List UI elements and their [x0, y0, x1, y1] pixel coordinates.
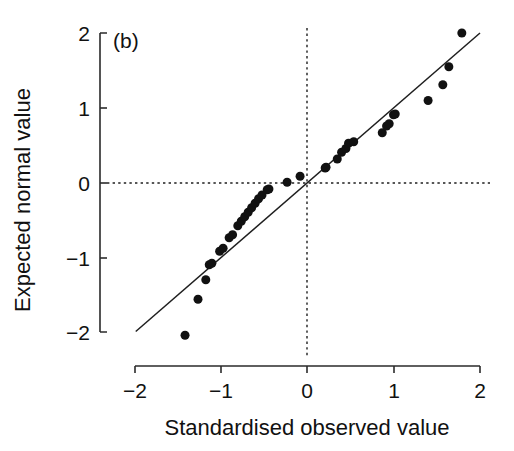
data-point — [391, 110, 400, 119]
data-point — [264, 185, 273, 194]
data-point — [424, 96, 433, 105]
x-tick-label-neg2: −2 — [123, 379, 147, 402]
chart-canvas: Expected normal value 2 1 0 −1 −2 (b) −2… — [0, 0, 514, 451]
data-point — [444, 62, 453, 71]
x-tick-label-neg1: −1 — [209, 379, 233, 402]
qq-plot-figure: Expected normal value 2 1 0 −1 −2 (b) −2… — [0, 0, 514, 451]
y-tick-label-1: 1 — [78, 97, 90, 120]
x-tick-label-0: 0 — [301, 379, 313, 402]
data-point — [349, 137, 358, 146]
y-tick-label-neg1: −1 — [66, 247, 90, 270]
scatter-points-group — [181, 29, 467, 340]
y-tick-label-0: 0 — [78, 172, 90, 195]
x-tick-label-1: 1 — [388, 379, 400, 402]
y-tick-label-neg2: −2 — [66, 321, 90, 344]
data-point — [283, 178, 292, 187]
data-point — [322, 163, 331, 172]
data-point — [207, 259, 216, 268]
data-point — [219, 244, 228, 253]
data-point — [385, 119, 394, 128]
panel-label: (b) — [113, 29, 139, 52]
data-point — [296, 172, 305, 181]
data-point — [201, 275, 210, 284]
x-axis-title: Standardised observed value — [165, 415, 450, 440]
data-point — [438, 80, 447, 89]
y-tick-label-2: 2 — [78, 22, 90, 45]
data-point — [194, 295, 203, 304]
identity-fit-line — [136, 33, 480, 332]
y-axis-title: Expected normal value — [10, 88, 35, 312]
data-point — [181, 331, 190, 340]
data-point — [228, 230, 237, 239]
x-tick-label-2: 2 — [474, 379, 486, 402]
data-point — [457, 29, 466, 38]
